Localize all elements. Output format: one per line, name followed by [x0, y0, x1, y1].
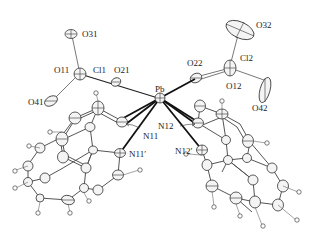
- crystal-structure-figure: O31 O11 Cl1 O21 O41 Pb O32 O22 Cl2 O12 O…: [0, 0, 313, 238]
- label-o31: O31: [82, 29, 98, 39]
- label-o12: O12: [226, 81, 242, 91]
- label-o11: O11: [54, 65, 69, 75]
- label-n11-prime: N11′: [129, 149, 146, 159]
- ligand-right: [184, 99, 301, 228]
- label-pb: Pb: [155, 84, 165, 94]
- ligand-left: [13, 91, 142, 215]
- label-n12-prime: N12′: [175, 146, 192, 156]
- ortep-diagram: O31 O11 Cl1 O21 O41 Pb O32 O22 Cl2 O12 O…: [0, 0, 313, 238]
- label-cl1: Cl1: [93, 65, 106, 75]
- label-o41: O41: [28, 97, 44, 107]
- label-o21: O21: [114, 65, 130, 75]
- label-cl2: Cl2: [240, 53, 253, 63]
- label-o42: O42: [252, 103, 268, 113]
- label-o32: O32: [256, 20, 272, 30]
- label-o22: O22: [187, 58, 203, 68]
- label-n12: N12: [158, 121, 174, 131]
- label-n11: N11: [143, 131, 158, 141]
